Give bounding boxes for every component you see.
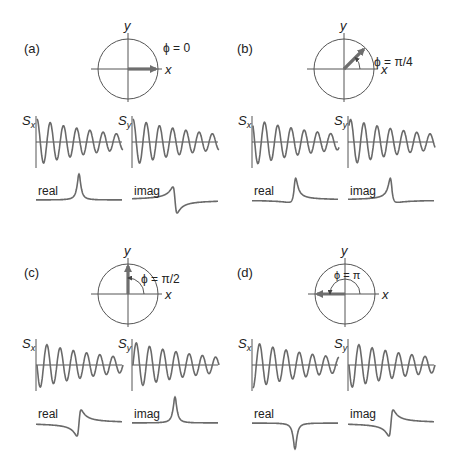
spectra: realimag [36, 174, 218, 213]
phase-arc-icon [355, 58, 360, 69]
sx-signal-trace [37, 345, 123, 387]
real-spectrum-label: real [38, 184, 58, 198]
fid-plots: SxSy [238, 336, 435, 391]
sx-signal-trace [253, 122, 339, 163]
real-spectrum-trace [252, 423, 338, 449]
spectra: realimag [252, 178, 434, 202]
sy-label: Sy [118, 336, 132, 353]
real-spectrum-label: real [254, 407, 274, 421]
sx-label: Sx [238, 336, 252, 353]
x-axis-label: x [381, 287, 389, 302]
fid-plots: SxSy [22, 336, 219, 391]
sx-signal-trace [253, 344, 339, 388]
spectra: realimag [252, 407, 434, 449]
imag-spectrum-label: imag [350, 407, 376, 421]
y-axis-label: y [123, 243, 132, 258]
x-axis-label: x [164, 287, 172, 302]
imag-spectrum-label: imag [350, 184, 376, 198]
fid-plots: SxSy [238, 113, 435, 168]
spectra: realimag [36, 397, 218, 436]
imag-spectrum-label: imag [134, 407, 160, 421]
panel-label: (b) [237, 41, 253, 56]
phase-circle-diagram: xy [91, 18, 172, 102]
real-spectrum-label: real [38, 407, 58, 421]
magnetization-vector-icon [344, 49, 364, 69]
sx-label: Sx [238, 113, 252, 130]
phase-label: ϕ = π/2 [141, 272, 180, 286]
panel-label: (c) [24, 265, 39, 280]
panel-d: (d) xy ϕ = π SxSyrealimag [237, 243, 435, 449]
y-axis-label: y [339, 18, 348, 33]
x-axis-label: x [164, 62, 172, 77]
phase-diagram-figure: (a) xy ϕ = 0 SxSyrealimag (b) xy ϕ = π/4… [0, 0, 465, 476]
sy-signal-trace [133, 119, 219, 163]
sy-label: Sy [118, 113, 132, 130]
panel-label: (a) [24, 41, 40, 56]
sx-label: Sx [22, 113, 36, 130]
imag-spectrum-label: imag [134, 184, 160, 198]
phase-label: ϕ = 0 [163, 41, 190, 55]
real-spectrum-label: real [254, 184, 274, 198]
panel-c: (c) xy ϕ = π/2 SxSyrealimag [22, 243, 219, 436]
panel-a: (a) xy ϕ = 0 SxSyrealimag [22, 18, 219, 213]
sy-label: Sy [334, 113, 348, 130]
sy-label: Sy [334, 336, 348, 353]
phase-label: ϕ = π [334, 269, 361, 281]
fid-plots: SxSy [22, 113, 219, 168]
sy-signal-trace [133, 343, 219, 385]
sy-signal-trace [349, 120, 435, 163]
phase-label: ϕ = π/4 [374, 55, 413, 69]
sy-signal-trace [349, 345, 435, 387]
phase-circle-diagram: xy [308, 243, 389, 327]
panel-b: (b) xy ϕ = π/4 SxSyrealimag [237, 18, 435, 202]
sx-signal-trace [37, 119, 123, 163]
y-axis-label: y [123, 18, 132, 33]
y-axis-label: y [340, 243, 349, 258]
sx-label: Sx [22, 336, 36, 353]
panel-label: (d) [237, 265, 253, 280]
